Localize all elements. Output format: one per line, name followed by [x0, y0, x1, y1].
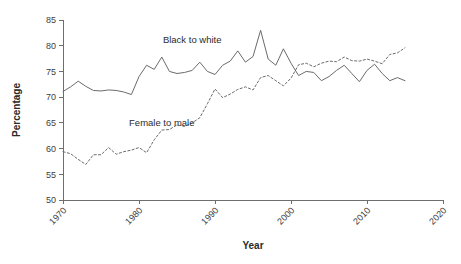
x-axis-title: Year	[242, 240, 263, 251]
x-axis: 197019801990200020102020	[47, 200, 448, 227]
series-label-black-to-white: Black to white	[163, 34, 222, 45]
x-tick-label: 2010	[351, 205, 372, 226]
y-tick-label: 85	[46, 15, 56, 25]
series-annotations: Black to whiteFemale to male	[129, 34, 221, 129]
y-tick-label: 60	[46, 144, 56, 154]
chart-canvas: 5055606570758085 19701980199020002010202…	[0, 0, 461, 264]
y-tick-label: 65	[46, 118, 56, 128]
y-axis-title: Percentage	[11, 83, 22, 137]
series-layer	[63, 30, 405, 164]
series-label-female-to-male: Female to male	[129, 117, 194, 128]
y-axis: 5055606570758085	[46, 15, 63, 205]
y-tick-label: 70	[46, 92, 56, 102]
y-tick-label: 55	[46, 170, 56, 180]
x-tick-label: 2020	[427, 205, 448, 226]
x-tick-label: 1980	[123, 205, 144, 226]
x-tick-label: 1990	[199, 205, 220, 226]
y-tick-label: 75	[46, 67, 56, 77]
x-tick-label: 2000	[275, 205, 296, 226]
series-path-female-to-male	[63, 48, 405, 165]
y-tick-label: 80	[46, 41, 56, 51]
x-tick-label: 1970	[47, 205, 68, 226]
y-tick-label: 50	[46, 195, 56, 205]
series-path-black-to-white	[63, 30, 405, 94]
percentage-by-year-line-chart: 5055606570758085 19701980199020002010202…	[0, 0, 461, 264]
